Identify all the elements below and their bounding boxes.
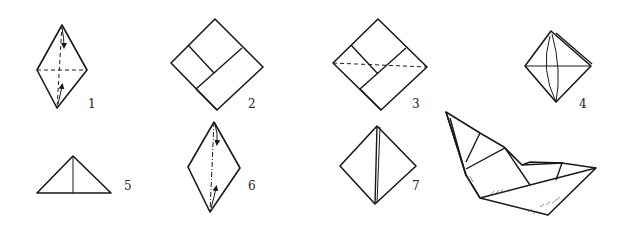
step-3-figure: 3 bbox=[333, 19, 427, 111]
step-label: 3 bbox=[412, 97, 420, 111]
step-label: 7 bbox=[412, 179, 420, 193]
step-label: 2 bbox=[248, 97, 256, 111]
step-2-figure: 2 bbox=[171, 19, 263, 111]
finished-boat-figure bbox=[446, 112, 596, 215]
step-6-figure: 6 bbox=[188, 122, 256, 212]
step-5-figure: 5 bbox=[37, 156, 132, 193]
step-7-figure: 7 bbox=[340, 126, 420, 204]
step-label: 6 bbox=[248, 179, 256, 193]
step-4-figure: 4 bbox=[525, 31, 592, 111]
step-label: 4 bbox=[579, 97, 587, 111]
origami-diagram: 1 2 3 4 5 6 bbox=[0, 0, 628, 230]
step-label: 5 bbox=[124, 179, 132, 193]
step-1-figure: 1 bbox=[37, 25, 96, 111]
step-label: 1 bbox=[88, 97, 96, 111]
